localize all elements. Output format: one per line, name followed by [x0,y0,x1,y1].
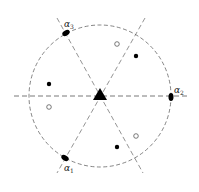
filled-point [134,54,138,58]
filled-point [47,82,51,86]
root-marker-alpha1 [60,154,69,162]
root-marker-alpha2 [169,93,174,101]
label-alpha3: α3 [64,19,74,30]
center-triangle-icon [93,88,107,100]
root-system-diagram: α3 α2 α1 [0,0,199,192]
open-point [134,134,139,139]
open-point [115,42,120,47]
label-alpha1: α1 [64,163,74,174]
filled-point [115,145,119,149]
label-alpha2: α2 [174,85,184,96]
open-point [47,105,52,110]
